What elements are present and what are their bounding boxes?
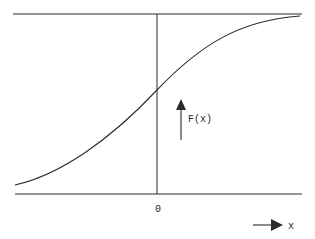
y-axis-label: F(x): [188, 114, 212, 125]
origin-label: 0: [155, 204, 161, 215]
y-arrow-icon: [176, 99, 186, 140]
x-arrow-icon: [253, 219, 283, 231]
x-axis-label: x: [288, 221, 294, 232]
cdf-diagram: F(x) 0 x: [0, 0, 315, 239]
